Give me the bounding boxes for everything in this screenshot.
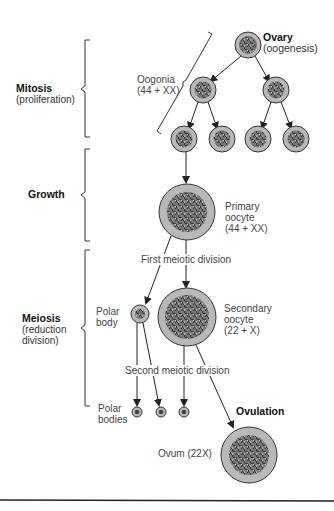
- growth-title: Growth: [28, 189, 65, 200]
- first-meiotic-division-label: First meiotic division: [140, 254, 232, 265]
- polar-bodies-cells: [132, 407, 189, 417]
- polar-bodies-line2: bodies: [98, 414, 127, 425]
- oogonia-label: Oogonia (44 + XX): [137, 74, 180, 96]
- second-meiotic-division-label: Second meiotic division: [124, 365, 231, 376]
- ovulation-label: Ovulation: [236, 406, 284, 417]
- meiosis-subtitle-1: (reduction: [22, 324, 66, 335]
- ovary-subtitle: (oogenesis): [263, 43, 318, 54]
- meiosis-subtitle-2: division): [22, 335, 66, 346]
- secondary-line2: oocyte: [224, 314, 272, 325]
- polar-body-label: Polar body: [96, 306, 119, 328]
- primary-oocyte-label: Primary oocyte (44 + XX): [225, 201, 268, 234]
- mitosis-bracket: [81, 40, 90, 137]
- ovary-label: Ovary (oogenesis): [263, 32, 318, 54]
- first-polar-body-cell: [131, 305, 149, 323]
- primary-line3: (44 + XX): [225, 223, 268, 234]
- ovary-cell: [235, 32, 261, 58]
- ovum-label: Ovum (22X): [158, 448, 212, 459]
- oogonia-line2: (44 + XX): [137, 85, 180, 96]
- secondary-oocyte-label: Secondary oocyte (22 + X): [224, 303, 272, 336]
- meiosis-title: Meiosis: [22, 313, 66, 324]
- polar-body-line2: body: [96, 317, 119, 328]
- polar-body-line1: Polar: [96, 306, 119, 317]
- oogonia-level3: [171, 126, 309, 152]
- growth-stage-label: Growth: [28, 189, 65, 200]
- ovum-cell: [221, 427, 277, 483]
- primary-line2: oocyte: [225, 212, 268, 223]
- mitosis-subtitle: (proliferation): [16, 94, 75, 105]
- meiosis-bracket: [81, 250, 90, 406]
- polar-bodies-label: Polar bodies: [98, 403, 127, 425]
- bottom-rule: [0, 500, 334, 501]
- oogonia-level2: [190, 77, 289, 103]
- meiosis-stage-label: Meiosis (reduction division): [22, 313, 66, 346]
- mitosis-title: Mitosis: [16, 83, 75, 94]
- primary-oocyte-cell: [159, 184, 215, 240]
- secondary-oocyte-cell: [158, 288, 216, 346]
- secondary-line1: Secondary: [224, 303, 272, 314]
- mitosis-stage-label: Mitosis (proliferation): [16, 83, 75, 105]
- growth-bracket: [81, 149, 90, 241]
- primary-line1: Primary: [225, 201, 268, 212]
- polar-bodies-line1: Polar: [98, 403, 127, 414]
- secondary-line3: (22 + X): [224, 325, 272, 336]
- oogonia-line1: Oogonia: [137, 74, 180, 85]
